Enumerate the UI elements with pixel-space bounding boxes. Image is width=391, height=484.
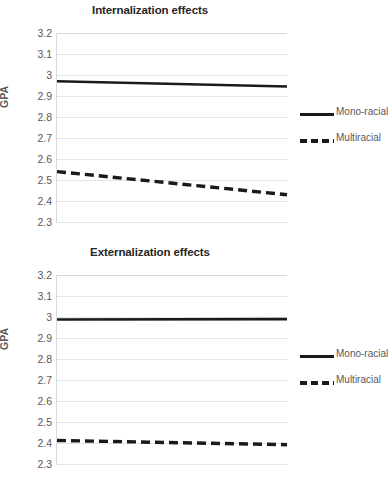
series-line-mono-racial: [57, 81, 287, 86]
legend-swatch-dashed-icon: [300, 139, 334, 143]
y-tick-2-3: 2.3: [16, 217, 52, 227]
series-lines-internalization: [57, 33, 287, 222]
y-tick-3-1: 3.1: [16, 49, 52, 59]
y-tick-2-6: 2.6: [16, 396, 52, 406]
y-tick-2-4: 2.4: [16, 196, 52, 206]
legend-swatch-solid-icon: [300, 355, 334, 358]
y-axis-title-internalization: GPA: [0, 86, 10, 108]
y-tick-3-1: 3.1: [16, 291, 52, 301]
legend-item-multiracial[interactable]: Multiracial: [300, 130, 391, 156]
legend-label-multiracial: Multiracial: [336, 374, 381, 385]
y-tick-2-4: 2.4: [16, 438, 52, 448]
y-tick-3-0: 3: [16, 70, 52, 80]
y-tick-2-8: 2.8: [16, 354, 52, 364]
y-tick-2-5: 2.5: [16, 417, 52, 427]
gridline-2-3: [57, 464, 287, 465]
series-line-multiracial: [57, 172, 287, 195]
y-tick-3-0: 3: [16, 312, 52, 322]
y-axis-title-externalization: GPA: [0, 328, 10, 350]
y-tick-2-7: 2.7: [16, 375, 52, 385]
legend-label-multiracial: Multiracial: [336, 132, 381, 143]
y-axis-ticklabels-internalization: 3.2 3.1 3 2.9 2.8 2.7 2.6 2.5 2.4 2.3: [12, 0, 52, 242]
legend-item-mono-racial[interactable]: Mono-racial: [300, 346, 391, 372]
legend-swatch-solid-icon: [300, 113, 334, 116]
legend-label-mono-racial: Mono-racial: [336, 348, 388, 359]
series-lines-externalization: [57, 275, 287, 464]
y-tick-2-6: 2.6: [16, 154, 52, 164]
legend-swatch-dashed-icon: [300, 381, 334, 385]
chart-panel-externalization: Externalization effects GPA 3.2 3.1 3 2.…: [0, 242, 391, 484]
legend-item-mono-racial[interactable]: Mono-racial: [300, 104, 391, 130]
chart-panel-internalization: Internalization effects GPA 3.2 3.1 3 2.…: [0, 0, 391, 242]
legend-label-mono-racial: Mono-racial: [336, 106, 388, 117]
y-tick-2-3: 2.3: [16, 459, 52, 469]
legend-externalization: Mono-racial Multiracial: [300, 346, 391, 398]
legend-internalization: Mono-racial Multiracial: [300, 104, 391, 156]
y-tick-3-2: 3.2: [16, 270, 52, 280]
y-tick-2-9: 2.9: [16, 333, 52, 343]
series-line-multiracial: [57, 440, 287, 444]
y-tick-2-7: 2.7: [16, 133, 52, 143]
legend-item-multiracial[interactable]: Multiracial: [300, 372, 391, 398]
gridline-2-3: [57, 222, 287, 223]
y-tick-2-8: 2.8: [16, 112, 52, 122]
y-tick-3-2: 3.2: [16, 28, 52, 38]
y-tick-2-9: 2.9: [16, 91, 52, 101]
y-axis-ticklabels-externalization: 3.2 3.1 3 2.9 2.8 2.7 2.6 2.5 2.4 2.3: [12, 242, 52, 484]
y-tick-2-5: 2.5: [16, 175, 52, 185]
